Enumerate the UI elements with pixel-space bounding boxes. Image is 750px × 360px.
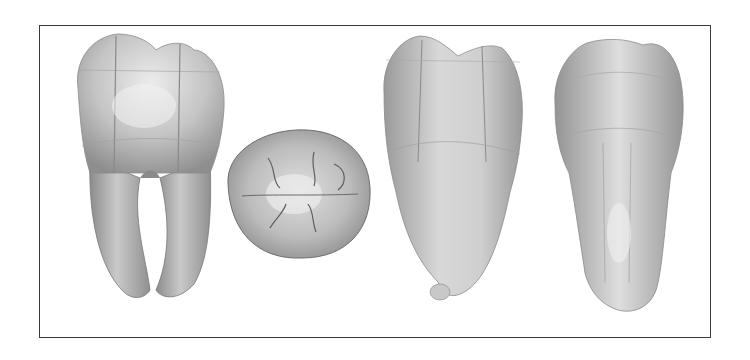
tooth-view-buccal [60, 28, 240, 308]
tooth-view-mesial [378, 32, 528, 307]
tooth-view-distal [547, 33, 689, 318]
tooth-view-occlusal [218, 124, 376, 264]
crown-root-outline [555, 39, 683, 311]
crown-root-outline [384, 36, 523, 296]
mesial-root [90, 158, 150, 298]
distal-root [156, 158, 211, 297]
